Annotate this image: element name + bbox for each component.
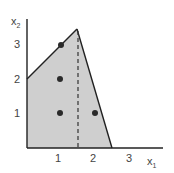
diagram-canvas: x2 3 2 1 1 2 3 x1 [0, 0, 174, 173]
integer-point-2-1 [92, 110, 98, 116]
feasible-region [27, 29, 112, 148]
integer-point-1-2 [57, 76, 63, 82]
integer-point-1-3 [58, 42, 64, 48]
x-tick-2: 2 [90, 152, 96, 164]
y-tick-1: 1 [14, 107, 20, 119]
x-axis-label: x1 [147, 155, 157, 169]
y-tick-2: 2 [14, 73, 20, 85]
y-tick-3: 3 [14, 38, 20, 50]
integer-point-1-1 [57, 110, 63, 116]
x-tick-3: 3 [126, 152, 132, 164]
x-tick-1: 1 [55, 152, 61, 164]
y-axis-label: x2 [11, 15, 21, 29]
